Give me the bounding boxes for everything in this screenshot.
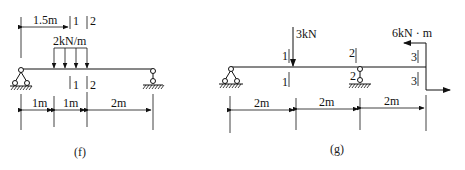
pin-support-icon (10, 68, 32, 91)
svg-text:2: 2 (350, 69, 356, 83)
svg-text:2: 2 (349, 46, 355, 60)
caption-g: (g) (330, 142, 344, 156)
section-2-top-f: 2 (87, 14, 96, 29)
moment-label: 6kN · m (392, 26, 433, 40)
bottom-dimension-f: 1m 1m 2m (21, 92, 153, 130)
svg-text:1m: 1m (32, 96, 48, 110)
svg-text:1: 1 (73, 78, 79, 92)
caption-f: (f) (74, 145, 86, 159)
figure-f: 1.5m 1 2 2kN/m 1 2 (10, 13, 164, 159)
svg-text:1: 1 (282, 75, 288, 89)
svg-text:3: 3 (411, 74, 417, 88)
section-1-g: 1 1 (282, 49, 289, 89)
roller-support-icon (143, 69, 164, 90)
section-3-g: 3 3 (411, 50, 418, 88)
section-1-bottom-f: 1 (70, 76, 79, 92)
svg-text:2m: 2m (254, 96, 270, 110)
bottom-dimension-g: 2m 2m 2m (230, 94, 426, 133)
section-1-top-f: 1 (70, 14, 79, 29)
svg-text:1: 1 (282, 49, 288, 63)
distributed-load-label: 2kN/m (53, 34, 87, 48)
svg-text:2: 2 (90, 78, 96, 92)
point-load-label: 3kN (296, 27, 317, 41)
moment-couple-g: 6kN · m (392, 26, 450, 90)
svg-text:2: 2 (90, 14, 96, 28)
diagram-canvas: 1.5m 1 2 2kN/m 1 2 (0, 0, 465, 170)
svg-text:2m: 2m (111, 96, 127, 110)
point-load-g: 3kN (293, 27, 317, 66)
distributed-load-f: 2kN/m (53, 34, 87, 68)
svg-text:1m: 1m (63, 96, 79, 110)
svg-text:1: 1 (73, 14, 79, 28)
pin-support-icon (219, 67, 243, 89)
svg-text:2m: 2m (319, 95, 335, 109)
section-2-g: 2 2 (349, 46, 356, 83)
top-dimension-label: 1.5m (33, 13, 58, 27)
figure-g: 3kN 1 1 2 2 3 3 6kN · m (219, 26, 450, 156)
section-2-bottom-f: 2 (87, 76, 96, 92)
svg-text:2m: 2m (384, 94, 400, 108)
svg-text:3: 3 (411, 50, 417, 64)
